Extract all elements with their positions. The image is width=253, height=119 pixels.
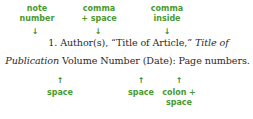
citation-text: 1. Author(s), “Title of Article,” (48, 37, 195, 48)
citation-line-2: Publication Volume Number (Date): Page n… (0, 55, 253, 66)
publication-title-italic: Title of (195, 37, 229, 48)
up-arrow-icon: ↑ (138, 77, 145, 85)
down-arrow-icon: ↓ (164, 28, 171, 36)
label-line: inside (151, 14, 183, 24)
label-line: space (47, 88, 73, 98)
note-number-label: note number (20, 4, 55, 24)
down-arrow-icon: ↓ (32, 28, 39, 36)
publication-title-italic: Publication (5, 55, 59, 66)
comma-inside-label: comma inside (151, 4, 183, 24)
up-arrow-icon: ↑ (57, 77, 64, 85)
label-line: space (162, 98, 196, 108)
comma-space-label: comma + space (81, 4, 117, 24)
label-line: number (20, 14, 55, 24)
label-line: comma (81, 4, 117, 14)
space-label: space (128, 88, 154, 98)
label-line: + space (81, 14, 117, 24)
citation-line-1: 1. Author(s), “Title of Article,” Title … (0, 37, 253, 48)
down-arrow-icon: ↓ (95, 28, 102, 36)
label-line: note (20, 4, 55, 14)
citation-text: Volume Number (Date): Page numbers. (59, 55, 250, 66)
label-line: space (128, 88, 154, 98)
label-line: comma (151, 4, 183, 14)
up-arrow-icon: ↑ (176, 77, 183, 85)
space-label: space (47, 88, 73, 98)
label-line: colon + (162, 88, 196, 98)
colon-space-label: colon + space (162, 88, 196, 108)
